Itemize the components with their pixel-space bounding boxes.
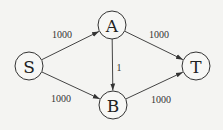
edge-weight-s-b: 1000 (51, 93, 71, 104)
node-b: B (99, 91, 127, 119)
edge-weight-s-a: 1000 (52, 29, 72, 40)
edge-a-b-arrow (112, 39, 113, 91)
node-label: A (105, 16, 119, 36)
node-s: S (15, 52, 43, 80)
edge-weight-a-b: 1 (117, 62, 122, 73)
edge-weight-a-t: 1000 (149, 29, 169, 40)
graph-svg: 10001000110001000 SABT (0, 0, 223, 130)
node-t: T (182, 52, 210, 80)
node-a: A (98, 11, 126, 39)
node-label: S (23, 57, 35, 77)
node-label: B (107, 96, 120, 116)
node-label: T (190, 57, 202, 77)
edges (42, 31, 183, 99)
graph-diagram: 10001000110001000 SABT (0, 0, 223, 130)
edge-weight-b-t: 1000 (151, 94, 171, 105)
